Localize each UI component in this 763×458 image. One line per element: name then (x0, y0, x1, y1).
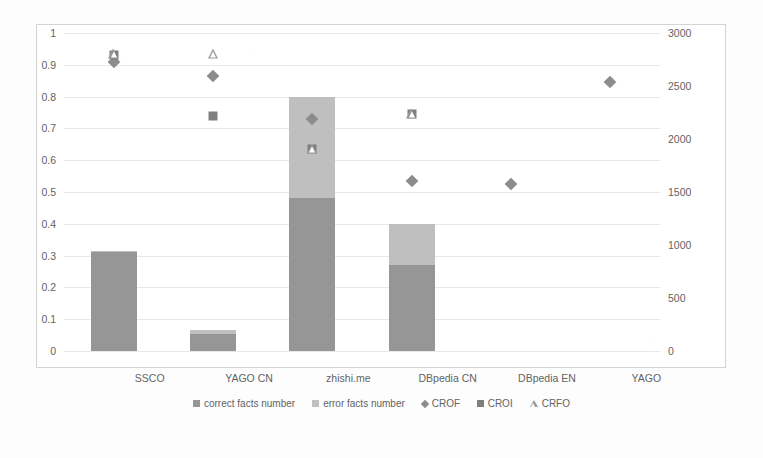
chart-root: 00.10.20.30.40.50.60.70.80.91 0500100015… (0, 0, 763, 458)
bar-segment-error-facts[interactable] (91, 251, 137, 253)
y-axis-left-tick-label: 0.8 (41, 92, 56, 103)
square-swatch-dark-icon (193, 400, 200, 407)
y-axis-left-tick-label: 1 (50, 28, 56, 39)
legend-item[interactable]: error facts number (312, 398, 405, 409)
data-point-marker-crfo[interactable] (407, 109, 417, 119)
y-axis-right-tick-label: 0 (668, 346, 674, 357)
y-axis-right-tick-label: 1500 (668, 187, 691, 198)
legend-item[interactable]: CRFO (530, 398, 570, 409)
gridline (64, 128, 660, 129)
square-marker-icon (477, 400, 484, 407)
bar-segment-correct-facts[interactable] (190, 334, 236, 352)
bar-column[interactable] (389, 33, 435, 351)
x-axis-category-label: DBpedia CN (419, 372, 477, 384)
data-point-marker-crfo[interactable] (109, 48, 119, 58)
bar-segment-error-facts[interactable] (190, 330, 236, 333)
x-axis-category-label: zhishi.me (326, 372, 370, 384)
legend-item-label: correct facts number (204, 398, 295, 409)
x-axis-category-label: YAGO CN (225, 372, 273, 384)
x-axis-category-label: SSCO (135, 372, 165, 384)
bar-segment-correct-facts[interactable] (289, 198, 335, 351)
y-axis-left: 00.10.20.30.40.50.60.70.80.91 (8, 33, 56, 351)
bar-segment-error-facts[interactable] (389, 224, 435, 265)
chart-legend: correct facts numbererror facts numberCR… (0, 398, 763, 409)
legend-item[interactable]: CROF (422, 398, 460, 409)
plot-area (64, 33, 660, 351)
legend-item-label: CROI (488, 398, 513, 409)
y-axis-left-tick-label: 0.1 (41, 314, 56, 325)
y-axis-left-tick-label: 0.2 (41, 282, 56, 293)
y-axis-left-tick-label: 0.3 (41, 251, 56, 262)
bar-column[interactable] (91, 33, 137, 351)
diamond-marker-icon (421, 399, 429, 407)
y-axis-right: 050010001500200025003000 (668, 33, 720, 351)
y-axis-left-tick-label: 0.5 (41, 187, 56, 198)
y-axis-right-tick-label: 2000 (668, 134, 691, 145)
data-point-marker-crfo[interactable] (208, 48, 218, 58)
legend-item-label: CROF (432, 398, 460, 409)
data-point-marker-crfo[interactable] (307, 144, 317, 154)
x-axis-category-label: DBpedia EN (518, 372, 576, 384)
triangle-marker-icon (530, 400, 538, 407)
data-point-marker-croi[interactable] (209, 111, 218, 120)
gridline (64, 33, 660, 34)
y-axis-left-tick-label: 0.7 (41, 123, 56, 134)
gridline (64, 224, 660, 225)
gridline (64, 256, 660, 257)
y-axis-right-tick-label: 3000 (668, 28, 691, 39)
gridline (64, 160, 660, 161)
legend-item[interactable]: CROI (477, 398, 513, 409)
y-axis-left-tick-label: 0 (50, 346, 56, 357)
legend-item-label: CRFO (542, 398, 570, 409)
y-axis-left-tick-label: 0.4 (41, 219, 56, 230)
gridline (64, 319, 660, 320)
y-axis-left-tick-label: 0.9 (41, 60, 56, 71)
data-point-marker-crof[interactable] (604, 76, 617, 89)
y-axis-right-tick-label: 1000 (668, 240, 691, 251)
legend-item-label: error facts number (323, 398, 405, 409)
y-axis-right-tick-label: 500 (668, 293, 686, 304)
gridline (64, 287, 660, 288)
bar-segment-correct-facts[interactable] (91, 252, 137, 351)
bar-column[interactable] (289, 33, 335, 351)
x-axis-category-label: YAGO (632, 372, 662, 384)
gridline (64, 65, 660, 66)
x-axis: SSCOYAGO CNzhishi.meDBpedia CNDBpedia EN… (100, 372, 696, 388)
gridline (64, 192, 660, 193)
bar-segment-correct-facts[interactable] (389, 265, 435, 351)
y-axis-left-tick-label: 0.6 (41, 155, 56, 166)
legend-item[interactable]: correct facts number (193, 398, 295, 409)
square-swatch-light-icon (312, 400, 319, 407)
gridline (64, 351, 660, 352)
y-axis-right-tick-label: 2500 (668, 81, 691, 92)
gridline (64, 97, 660, 98)
data-point-marker-crof[interactable] (505, 178, 518, 191)
